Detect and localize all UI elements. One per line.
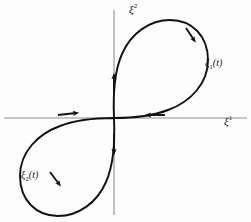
trajectory-label-upper: ξ1(t) <box>205 57 222 71</box>
vertical-axis-label-superscript: 2 <box>134 2 138 10</box>
arrow-upper-loop-right-icon <box>186 28 194 40</box>
trajectory-curve-upper <box>114 20 208 118</box>
arrow-lower-loop-left-icon <box>50 172 59 184</box>
phase-portrait-svg <box>0 0 251 222</box>
horizontal-axis-label-superscript: 1 <box>229 114 233 122</box>
direction-arrowheads <box>50 28 194 184</box>
trajectory-label-upper-suffix: (t) <box>213 57 222 68</box>
trajectory-label-lower-suffix: (t) <box>29 169 38 180</box>
trajectory-curve-lower <box>20 118 114 216</box>
phase-portrait-figure: ξ2 ξ1 ξ1(t) ξ2(t) <box>0 0 251 222</box>
arrow-lower-axis-right-icon <box>58 113 76 115</box>
vertical-axis-label: ξ2 <box>129 2 137 15</box>
horizontal-axis-label: ξ1 <box>224 114 232 127</box>
trajectory-label-lower: ξ2(t) <box>21 169 38 183</box>
